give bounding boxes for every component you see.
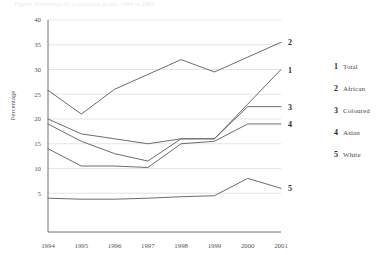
legend-item-asian: 4 Asian — [334, 128, 388, 150]
series-endpoint-label-coloured: 3 — [288, 103, 292, 112]
y-tick-label: 30 — [34, 66, 41, 73]
series-endpoint-label-african: 2 — [288, 38, 292, 47]
x-tick-label: 1997 — [141, 242, 155, 249]
series-endpoint-label-total: 1 — [288, 66, 292, 75]
y-tick-label: 10 — [34, 165, 41, 172]
legend-label: Asian — [343, 129, 360, 137]
y-tick-label: 35 — [34, 41, 41, 48]
legend-label: White — [343, 151, 361, 159]
legend-item-african: 2 African — [334, 84, 388, 106]
y-tick-label: 5 — [38, 190, 42, 197]
series-line-total — [48, 70, 281, 144]
x-tick-label: 1996 — [108, 242, 122, 249]
legend-number: 5 — [334, 150, 343, 159]
legend-label: Coloured — [343, 107, 370, 115]
series-endpoint-label-white: 5 — [288, 184, 292, 193]
chart-page: Figure: Percentage by population group, … — [0, 0, 388, 255]
series-endpoint-label-asian: 4 — [288, 120, 292, 129]
line-chart-figure: Percentage 510152025303540 12345 1994199… — [0, 6, 330, 250]
x-tick-label: 1998 — [174, 242, 188, 249]
legend-number: 4 — [334, 128, 343, 137]
y-tick-label: 40 — [34, 16, 41, 23]
y-tick-labels-group: 510152025303540 — [34, 16, 41, 196]
y-tick-label: 15 — [34, 140, 41, 147]
y-tick-label: 20 — [34, 115, 41, 122]
series-line-asian — [48, 124, 281, 168]
x-tick-labels-group: 19941995199619971998199920002001 — [41, 242, 288, 249]
series-lines-group — [48, 42, 281, 199]
series-endpoint-labels-group: 12345 — [288, 38, 292, 193]
legend-label: Total — [343, 63, 358, 71]
series-line-white — [48, 178, 281, 199]
legend-item-coloured: 3 Coloured — [334, 106, 388, 128]
axes-group — [48, 20, 281, 232]
x-tick-label: 1994 — [41, 242, 55, 249]
series-line-african — [48, 42, 281, 114]
x-tick-label: 2000 — [241, 242, 255, 249]
legend-item-total: 1 Total — [334, 62, 388, 84]
x-tick-label: 1995 — [74, 242, 88, 249]
chart-plot-area: 510152025303540 12345 199419951996199719… — [0, 6, 330, 250]
y-tick-label: 25 — [34, 91, 41, 98]
legend-number: 1 — [334, 62, 343, 71]
legend-number: 3 — [334, 106, 343, 115]
gridlines-group — [48, 20, 281, 193]
x-tick-label: 1999 — [208, 242, 222, 249]
legend-label: African — [343, 85, 365, 93]
x-tick-label: 2001 — [274, 242, 288, 249]
chart-legend: 1 Total 2 African 3 Coloured 4 Asian 5 W… — [334, 62, 388, 172]
legend-item-white: 5 White — [334, 150, 388, 172]
legend-number: 2 — [334, 84, 343, 93]
